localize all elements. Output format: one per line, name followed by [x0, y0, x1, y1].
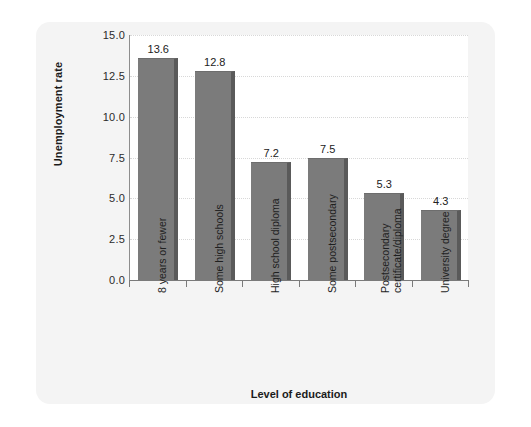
x-axis-tickmark — [242, 280, 243, 287]
x-axis-tickmark — [355, 280, 356, 287]
x-axis-category-label-line: Some high schools — [213, 204, 225, 293]
y-axis-tick-label: 15.0 — [91, 29, 125, 41]
x-axis-category-label-line: Some postsecondary — [326, 194, 338, 293]
x-axis-category-label-line: Postsecondary — [379, 208, 391, 293]
plot-panel: 13.612.87.27.55.34.3 — [129, 35, 468, 280]
x-axis-category-label: Postsecondarycertificate/diploma — [379, 208, 403, 293]
y-axis-tick-label: 2.5 — [91, 233, 125, 245]
y-axis-tick-label: 0.0 — [91, 274, 125, 286]
x-axis-category-label: Some postsecondary — [326, 194, 338, 293]
x-axis-tickmark — [186, 280, 187, 287]
x-axis-tickmark — [129, 280, 130, 287]
gridline — [130, 117, 468, 118]
x-axis-category-label-line: High school diploma — [269, 198, 281, 293]
bar-value-label: 7.5 — [300, 143, 356, 155]
y-axis-tick-labels: 0.02.55.07.510.012.515.0 — [85, 35, 125, 280]
x-axis-category-label: High school diploma — [269, 198, 281, 293]
bar-value-label: 7.2 — [243, 147, 299, 159]
x-axis-category-label: Some high schools — [213, 204, 225, 293]
y-axis-tick-label: 12.5 — [91, 70, 125, 82]
y-axis-tick-label: 10.0 — [91, 111, 125, 123]
x-axis-tickmark — [299, 280, 300, 287]
bar-value-label: 12.8 — [187, 56, 243, 68]
x-axis-category-label: University degree — [439, 211, 451, 293]
x-axis-tickmark — [412, 280, 413, 287]
y-axis-title: Unemployment rate — [52, 34, 64, 194]
y-axis-tick-label: 5.0 — [91, 192, 125, 204]
gridline — [130, 239, 468, 240]
x-axis-category-label-line: 8 years or fewer — [156, 218, 168, 293]
bar-value-label: 13.6 — [130, 43, 186, 55]
gridline — [130, 76, 468, 77]
bar-value-label: 4.3 — [413, 195, 469, 207]
x-axis-title: Level of education — [129, 388, 469, 400]
gridline — [130, 35, 468, 36]
bar-value-label: 5.3 — [356, 178, 412, 190]
x-axis-category-label-line: University degree — [439, 211, 451, 293]
x-axis-tickmark — [468, 280, 469, 287]
x-axis-category-label-line: certificate/diploma — [391, 208, 403, 293]
y-axis-tick-label: 7.5 — [91, 152, 125, 164]
x-axis-category-label: 8 years or fewer — [156, 218, 168, 293]
